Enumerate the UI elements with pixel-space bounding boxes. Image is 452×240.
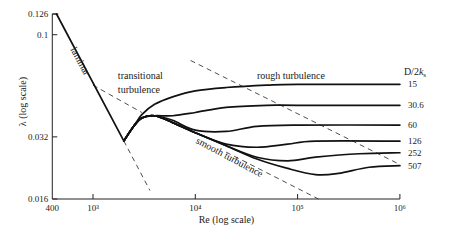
annotation-transitional: transitional: [118, 70, 163, 81]
y-tick-label: 0.1: [37, 30, 48, 40]
legend-title: D/2ks: [404, 66, 426, 79]
annotation-rough-turbulence: rough turbulence: [257, 70, 326, 81]
series-curve-252: [124, 116, 400, 161]
legend-title-main: D/2: [404, 66, 419, 77]
dashed-line-laminar-extension: [124, 141, 150, 191]
annotation-turbulence: turbulence: [118, 84, 161, 95]
series-label: 15: [408, 79, 418, 89]
y-tick-label: 0.032: [28, 132, 48, 142]
series-label: 507: [408, 161, 422, 171]
x-tick-label: 10⁴: [189, 203, 201, 213]
series-label: 30.6: [408, 100, 424, 110]
series-labels: 1530.660126252507: [408, 79, 424, 170]
friction-factor-chart: 40010³10⁴10⁵10⁶ 0.1260.10.0320.016 1530.…: [0, 0, 452, 240]
series-curve-30-6: [124, 105, 400, 141]
y-tick-label: 0.126: [28, 9, 49, 19]
laminar-line: [57, 14, 124, 141]
series-label: 252: [408, 148, 422, 158]
x-tick-label: 400: [46, 203, 60, 213]
legend-title-sub: s: [423, 71, 426, 79]
annotation-laminar: laminar: [69, 45, 93, 78]
dashed-lines: [93, 61, 400, 199]
x-tick-label: 10³: [87, 203, 99, 213]
x-ticks: 40010³10⁴10⁵10⁶: [46, 194, 406, 213]
series-label: 60: [408, 120, 418, 130]
series-curve-15: [124, 84, 400, 141]
y-tick-label: 0.016: [28, 194, 49, 204]
x-axis-title: Re (log scale): [199, 214, 255, 226]
x-tick-label: 10⁶: [394, 203, 406, 213]
series-label: 126: [408, 136, 422, 146]
y-axis-title: λ (log scale): [17, 77, 29, 126]
y-ticks: 0.1260.10.0320.016: [28, 9, 57, 204]
x-tick-label: 10⁵: [292, 203, 304, 213]
